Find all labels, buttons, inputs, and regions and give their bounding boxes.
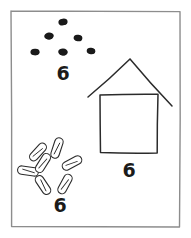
dot-mark-ink xyxy=(60,19,67,25)
dot-mark-ink xyxy=(75,35,82,40)
drawing-surface: 6 6 6 xyxy=(0,0,191,238)
dot-mark-ink xyxy=(32,50,39,56)
house-group-count-label: 6 xyxy=(122,159,135,181)
dot-mark-ink xyxy=(59,50,66,56)
worksheet-canvas: 6 6 6 xyxy=(0,0,191,238)
seed-group-count-label: 6 xyxy=(53,194,66,216)
dot-mark-ink xyxy=(45,34,52,40)
dot-mark-ink xyxy=(88,49,95,54)
page-background xyxy=(0,0,191,238)
dot-group-count-label: 6 xyxy=(56,62,69,84)
